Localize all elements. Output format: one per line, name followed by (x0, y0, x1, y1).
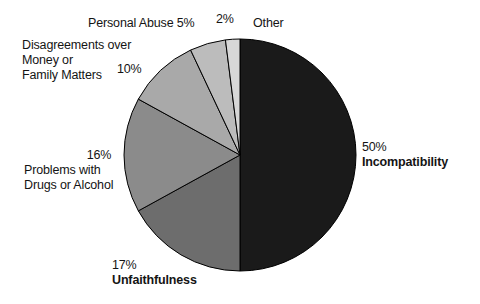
slice-percent-incompatibility: 50% (362, 140, 448, 155)
slice-name-unfaithfulness: Unfaithfulness (112, 273, 197, 288)
slice-percent-other: 2% (216, 12, 234, 27)
slice-name-money-or-family-line2: Money or (22, 53, 131, 68)
slice-label-money-or-family: Disagreements over Money or Family Matte… (22, 38, 131, 83)
slice-name-personal-abuse: Personal Abuse 5% (88, 16, 195, 31)
slice-name-incompatibility: Incompatibility (362, 155, 448, 170)
slice-label-drugs-or-alcohol: 16% Problems with Drugs or Alcohol (24, 148, 113, 193)
slice-name-money-or-family-line3: Family Matters (22, 68, 131, 83)
slice-percent-drugs-or-alcohol: 16% (24, 148, 113, 163)
slice-label-other: Other (253, 16, 284, 31)
slice-name-drugs-or-alcohol-line2: Drugs or Alcohol (24, 178, 113, 193)
slice-label-unfaithfulness: 17% Unfaithfulness (112, 258, 197, 288)
slice-percent-unfaithfulness: 17% (112, 258, 197, 273)
slice-name-money-or-family-line1: Disagreements over (22, 38, 131, 53)
slice-label-personal-abuse: Personal Abuse 5% (88, 16, 195, 31)
slice-percent-money-or-family-wrapper: 10% (117, 62, 142, 77)
slice-name-other: Other (253, 16, 284, 31)
slice-label-incompatibility: 50% Incompatibility (362, 140, 448, 170)
slice-name-drugs-or-alcohol-line1: Problems with (24, 163, 113, 178)
pie-chart: 50% Incompatibility 17% Unfaithfulness 1… (0, 0, 480, 304)
slice-percent-other-wrapper: 2% (216, 12, 234, 27)
pie-slice-incompatibility (240, 39, 356, 271)
slice-percent-money-or-family: 10% (117, 62, 142, 77)
